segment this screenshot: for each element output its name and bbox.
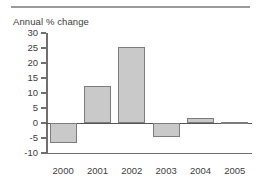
y-axis-tick [41, 152, 46, 154]
y-axis-tick-label: -5 [8, 133, 38, 143]
y-axis-tick [41, 122, 46, 124]
y-axis-tick-label: -10 [8, 148, 38, 158]
top-rule-divider [11, 6, 250, 8]
x-axis-tick-label: 2005 [215, 166, 255, 176]
y-axis-tick-label: 20 [8, 58, 38, 68]
y-axis-tick-label: 25 [8, 43, 38, 53]
y-axis-tick-label: 10 [8, 88, 38, 98]
bar [153, 123, 180, 137]
x-axis-line [46, 153, 252, 155]
y-axis-tick [41, 77, 46, 79]
bar [118, 47, 145, 124]
y-axis-line [46, 33, 48, 154]
bar [221, 122, 248, 124]
bar [187, 118, 214, 123]
y-axis-tick-label: 15 [8, 73, 38, 83]
y-axis-tick [41, 107, 46, 109]
y-axis-tick [41, 32, 46, 34]
y-axis-tick [41, 137, 46, 139]
chart-figure: Annual % change 302520151050-5-10 200020… [0, 0, 263, 192]
bar [50, 123, 77, 143]
y-axis-tick [41, 47, 46, 49]
y-axis-tick-label: 0 [8, 118, 38, 128]
y-axis-tick-label: 5 [8, 103, 38, 113]
y-axis-tick-label: 30 [8, 28, 38, 38]
y-axis-tick [41, 62, 46, 64]
bar [84, 86, 111, 123]
y-axis-tick-labels: 302520151050-5-10 [6, 0, 38, 192]
y-axis-tick [41, 92, 46, 94]
